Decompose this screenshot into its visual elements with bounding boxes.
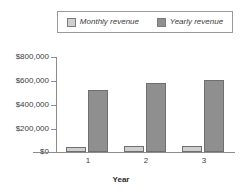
x-axis-line <box>33 152 235 153</box>
bar-yearly-3[interactable] <box>204 80 224 152</box>
y-axis-label-400000: $400,000 <box>16 101 49 109</box>
bar-monthly-3[interactable] <box>182 146 202 152</box>
x-axis-label-1: 1 <box>62 157 114 165</box>
x-axis-label-3: 3 <box>178 157 230 165</box>
y-axis-label-800000: $800,000 <box>16 53 49 61</box>
bar-group-3 <box>178 57 230 152</box>
y-axis-label-800000-wrap: $800,000 <box>0 53 49 61</box>
bar-yearly-2[interactable] <box>146 83 166 152</box>
x-axis-label-2: 2 <box>120 157 172 165</box>
bar-group-2 <box>120 57 172 152</box>
y-axis-label-200000-wrap: $200,000 <box>0 125 49 133</box>
plot-area <box>56 57 232 152</box>
bar-chart: Monthly revenue Yearly revenue $800,000 … <box>0 0 242 196</box>
chart-legend: Monthly revenue Yearly revenue <box>57 11 233 33</box>
y-axis-label-400000-wrap: $400,000 <box>0 101 49 109</box>
y-axis-label-600000: $600,000 <box>16 77 49 85</box>
bar-monthly-1[interactable] <box>66 147 86 152</box>
bar-group-1 <box>62 57 114 152</box>
bar-monthly-2[interactable] <box>124 146 144 152</box>
y-axis-label-600000-wrap: $600,000 <box>0 77 49 85</box>
bar-yearly-1[interactable] <box>88 90 108 152</box>
legend-label-yearly: Yearly revenue <box>170 18 223 26</box>
legend-entry-yearly[interactable]: Yearly revenue <box>157 18 223 27</box>
x-axis-title: Year <box>0 176 242 184</box>
y-axis-label-200000: $200,000 <box>16 125 49 133</box>
legend-entry-monthly[interactable]: Monthly revenue <box>67 18 139 27</box>
legend-swatch-monthly-icon <box>67 18 76 27</box>
legend-label-monthly: Monthly revenue <box>80 18 139 26</box>
legend-swatch-yearly-icon <box>157 18 166 27</box>
